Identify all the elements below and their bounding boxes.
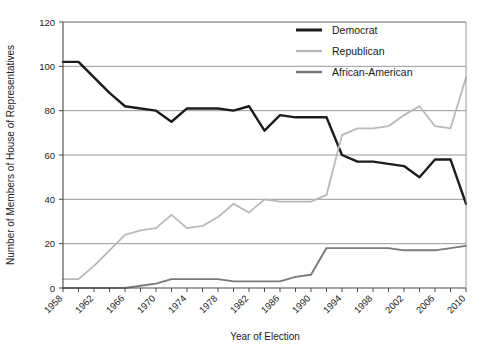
y-tick-label-120: 120 [39,17,55,28]
y-tick-label-60: 60 [44,150,55,161]
chart-container: 020406080100120 195819621966197019741978… [0,0,481,347]
y-tick-label-40: 40 [44,194,55,205]
y-tick-label-100: 100 [39,61,55,72]
y-tick-label-20: 20 [44,238,55,249]
x-axis-title: Year of Election [230,331,300,342]
line-chart: 020406080100120 195819621966197019741978… [0,0,481,347]
legend-label-republican: Republican [332,45,385,57]
y-tick-label-80: 80 [44,105,55,116]
legend-label-democrat: Democrat [332,24,378,36]
y-axis-title: Number of Members of House of Representa… [5,45,16,265]
y-tick-label-0: 0 [50,283,55,294]
legend-label-african-american: African-American [332,66,413,78]
